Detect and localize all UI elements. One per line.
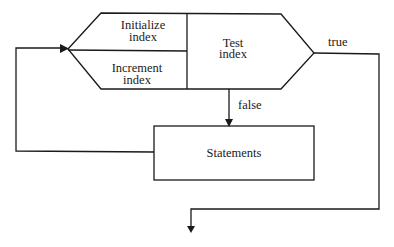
statements-label: Statements: [207, 146, 262, 160]
false-label: false: [238, 98, 262, 112]
exit-arrowhead-icon: [187, 226, 195, 233]
true-edge: [191, 53, 379, 227]
loop-control-hexagon: [68, 13, 314, 89]
test-index-label-line2: index: [219, 47, 248, 61]
for-loop-flowchart: Initialize index Increment index Test in…: [0, 0, 394, 247]
initialize-index-label-line2: index: [129, 30, 158, 44]
true-label: true: [328, 35, 348, 49]
init-increment-divider: [68, 50, 187, 51]
increment-index-label-line2: index: [123, 73, 152, 87]
loop-back-arrowhead-icon: [60, 44, 69, 53]
